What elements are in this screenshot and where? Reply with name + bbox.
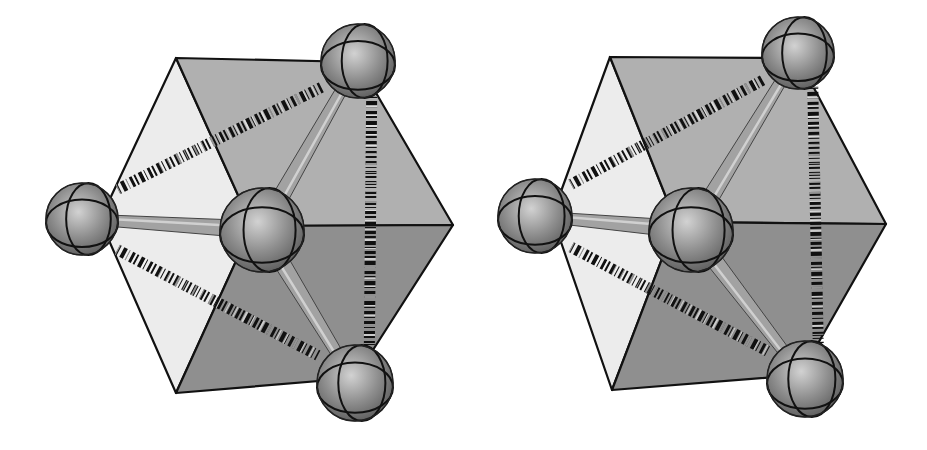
atom-central [649,188,733,272]
stereo-panel-left [46,24,453,421]
atom-central [220,188,304,272]
stereo-molecule-diagram [0,0,927,450]
stereo-panel-right [498,17,886,417]
dashed-tetrahedron-edge [813,87,818,343]
atom-bottom-right [317,345,393,421]
atom-top-right [762,17,834,89]
atom-left [46,183,118,255]
atom-left [498,179,572,253]
atom-bottom-right [767,341,843,417]
atom-top-right [321,24,395,98]
